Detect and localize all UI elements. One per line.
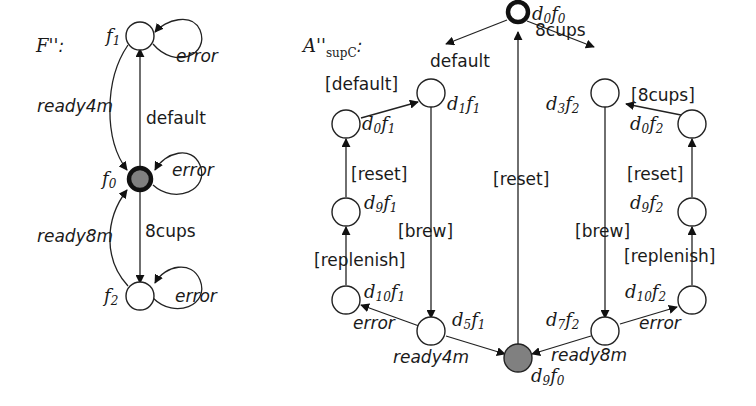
label-d9f0: d9f0: [531, 365, 565, 388]
label-d10f1: d10f1: [364, 281, 405, 304]
left-title: F'':: [35, 35, 64, 56]
label-ready8m: ready8m: [551, 345, 627, 365]
label-error-right: error: [639, 313, 682, 333]
label-b8cups: [8cups]: [631, 85, 695, 105]
automata-figure: F'': f1 f0 f2 error error error default …: [0, 0, 756, 406]
label-default: default: [146, 108, 206, 128]
label-reset-left: [reset]: [351, 164, 407, 184]
state-d0f2: [678, 110, 706, 138]
edge-default: [446, 20, 507, 44]
label-reset-center: [reset]: [493, 169, 549, 189]
label-d0f2: d0f2: [630, 113, 663, 136]
state-d10f2: [678, 286, 706, 314]
state-d3f2: [591, 79, 619, 107]
label-ready8m: ready8m: [37, 226, 113, 246]
label-error-left: error: [353, 313, 396, 333]
diagram-f-double-prime: F'': f1 f0 f2 error error error default …: [35, 19, 219, 310]
label-d3f2: d3f2: [546, 93, 579, 116]
label-reset-right: [reset]: [627, 164, 683, 184]
label-d9f2: d9f2: [630, 192, 663, 215]
label-f2-error: error: [175, 286, 218, 306]
state-d9f0-marked: [504, 344, 532, 372]
label-f1: f1: [104, 25, 120, 48]
state-d9f1: [332, 198, 360, 226]
label-d1f1: d1f1: [447, 93, 480, 116]
label-d5f1: d5f1: [452, 309, 485, 332]
label-f0-error: error: [172, 160, 215, 180]
label-8cups: 8cups: [535, 20, 586, 40]
label-ready4m: ready4m: [37, 96, 113, 116]
state-d1f1: [417, 79, 445, 107]
label-replenish-right: [replenish]: [624, 246, 715, 266]
diagram-a-double-prime-supc: A''supC: d0f0 d1f1 d0f1 d9f1: [301, 2, 715, 388]
label-f2: f2: [102, 285, 118, 308]
label-brew-right: [brew]: [575, 221, 630, 241]
label-replenish-left: [replenish]: [314, 250, 405, 270]
state-d5f1: [417, 317, 445, 345]
state-d0f0-initial: [508, 2, 528, 22]
label-brew-left: [brew]: [398, 221, 453, 241]
state-f2: [126, 282, 154, 310]
state-d10f1: [332, 286, 360, 314]
label-d9f1: d9f1: [364, 192, 397, 215]
label-d0f1: d0f1: [362, 113, 395, 136]
label-ready4m: ready4m: [393, 347, 469, 367]
right-title: A''supC:: [301, 35, 362, 60]
state-d0f1: [332, 110, 360, 138]
label-bdefault: [default]: [325, 74, 398, 94]
label-d10f2: d10f2: [625, 281, 666, 304]
label-default: default: [430, 51, 490, 71]
label-f0: f0: [100, 168, 117, 191]
label-d7f2: d7f2: [546, 309, 579, 332]
state-f1: [126, 22, 154, 50]
state-d7f2: [591, 317, 619, 345]
state-d9f2: [678, 198, 706, 226]
label-8cups: 8cups: [145, 221, 196, 241]
state-f0-initial-marked: [129, 168, 151, 190]
label-f1-error: error: [176, 46, 219, 66]
